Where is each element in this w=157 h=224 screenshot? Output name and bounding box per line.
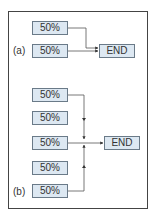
end-node-b: END [104,136,140,150]
input-node-a1: 50% [32,21,68,35]
input-node-b4: 50% [32,161,68,175]
input-node-b5: 50% [32,184,68,198]
input-node-b1: 50% [32,88,68,102]
panel-b-label: (b) [13,186,25,197]
input-node-b3: 50% [32,136,68,150]
panel-a-label: (a) [13,45,25,56]
end-node-a: END [99,44,135,58]
input-node-a2: 50% [32,44,68,58]
input-node-b2: 50% [32,111,68,125]
